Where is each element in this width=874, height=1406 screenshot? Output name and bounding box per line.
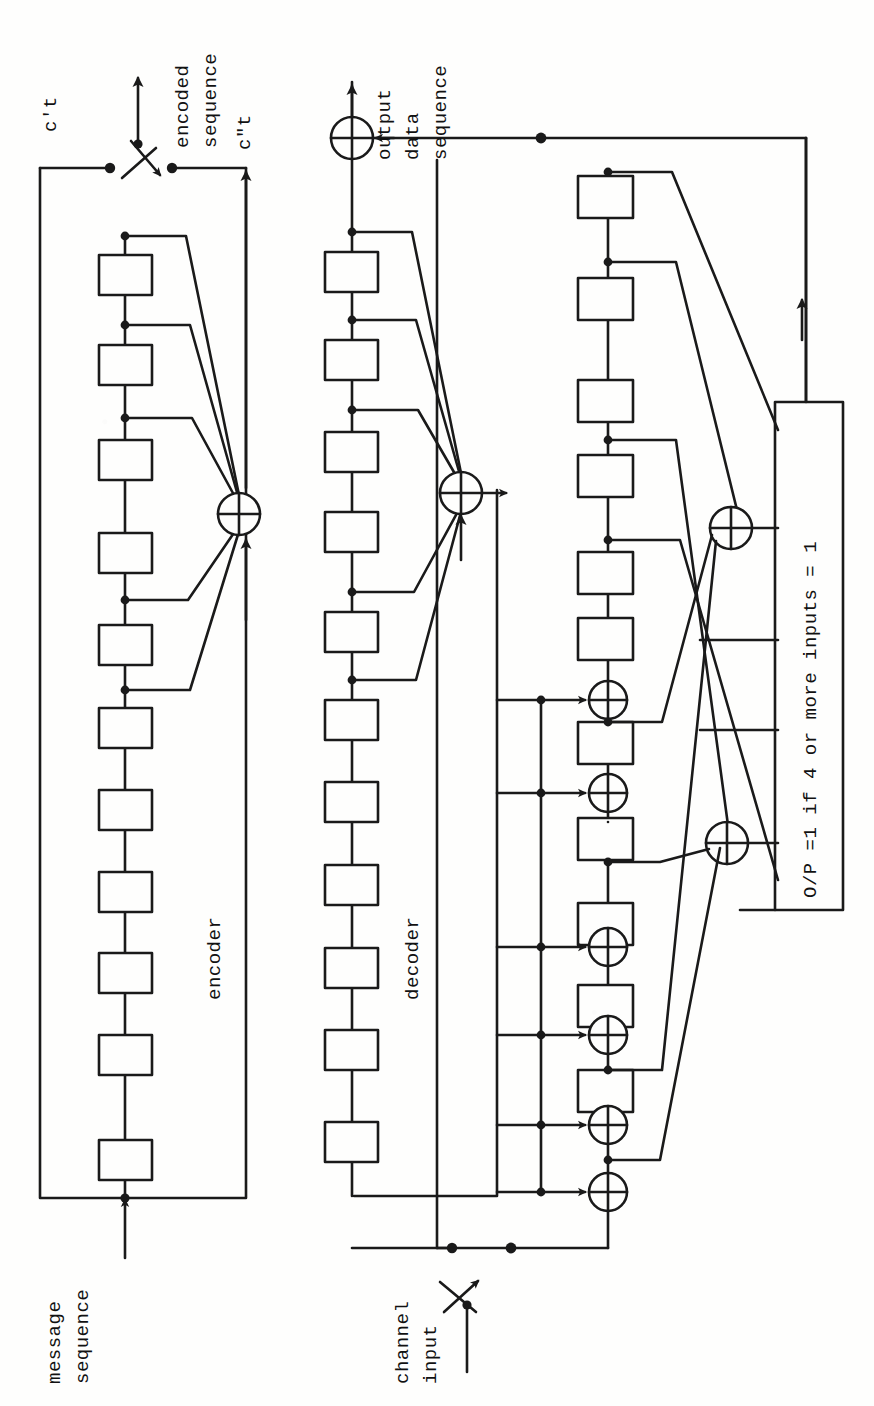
label-output-data-line3: sequence [430,65,452,160]
label-c-prime-t: c't [40,96,62,132]
label-message-sequence-line1: message [44,1301,66,1384]
syndrome-feed-lines [497,696,585,1197]
syndrome-xor-3 [589,928,627,966]
majority-aux-xor-1 [710,507,778,549]
label-channel-input-line1: channel [392,1301,414,1384]
syndrome-register [578,176,633,1112]
syndrome-xor-4 [589,1016,627,1054]
channel-input-line [437,1243,608,1254]
label-message-sequence-line2: sequence [72,1289,94,1384]
syndrome-xor-2 [589,774,627,812]
label-output-data-line1: output [374,89,396,160]
label-majority-gate: O/P =1 if 4 or more inputs = 1 [800,541,822,898]
label-c-double-prime-t: c"t [234,114,256,150]
encoder-input-line [120,1193,129,1258]
label-encoder: encoder [204,917,226,1000]
encoder-output-switch[interactable] [122,78,160,178]
label-channel-input-line2: input [420,1324,442,1384]
label-encoded-sequence-line2: sequence [200,53,222,148]
encoder-xor-gate [218,493,260,535]
decoder-xor-gate [440,472,482,514]
channel-input-switch[interactable] [352,1243,478,1372]
syndrome-feedback-top [370,133,806,404]
figure-page: message sequence encoder decoder channel… [0,0,874,1406]
majority-aux-xor-2 [706,822,778,864]
circuit-diagram: message sequence encoder decoder channel… [0,0,874,1406]
c-prime-line [40,163,115,173]
output-xor-gate [331,117,373,159]
label-encoded-sequence-line1: encoded [172,65,194,148]
label-decoder: decoder [402,917,424,1000]
syndrome-xor-5 [589,1106,627,1144]
syndrome-xor-6 [589,1173,627,1211]
c-double-prime-line [167,163,246,173]
syndrome-xor-1 [589,681,627,719]
label-output-data-line2: data [402,112,424,160]
